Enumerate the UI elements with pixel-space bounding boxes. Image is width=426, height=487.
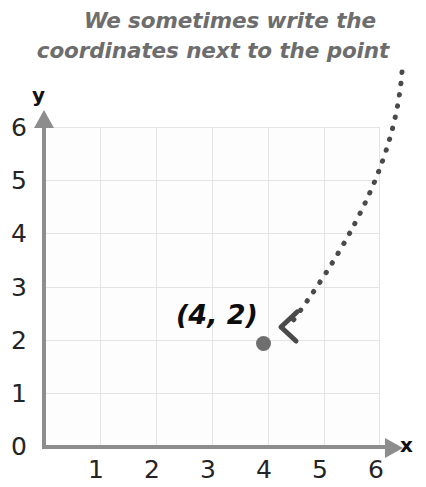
y-axis-label: y [32, 85, 45, 105]
caption-line-2: coordinates next to the point [0, 36, 426, 66]
gridline-h-6 [44, 127, 380, 128]
gridline-h-4 [44, 233, 380, 234]
x-tick-2: 2 [139, 457, 165, 482]
x-axis-line [42, 445, 390, 449]
y-tick-1: 1 [6, 381, 32, 406]
x-axis-label: x [400, 435, 413, 455]
x-tick-4: 4 [251, 457, 277, 482]
plot-area [44, 127, 380, 447]
x-tick-3: 3 [195, 457, 221, 482]
gridline-h-3 [44, 287, 380, 288]
y-tick-3: 3 [6, 275, 32, 300]
y-axis-arrowhead-icon [34, 110, 54, 128]
x-tick-1: 1 [83, 457, 109, 482]
gridline-h-5 [44, 180, 380, 181]
y-tick-6: 6 [6, 115, 32, 140]
point-coordinate-label: (4, 2) [176, 300, 258, 330]
y-tick-2: 2 [6, 328, 32, 353]
y-axis-line [42, 125, 46, 449]
caption-line-1: We sometimes write the [0, 6, 426, 36]
y-tick-5: 5 [6, 168, 32, 193]
gridline-h-1 [44, 393, 380, 394]
data-point-4-2 [256, 336, 271, 351]
y-tick-4: 4 [6, 221, 32, 246]
gridline-h-2 [44, 340, 380, 341]
origin-tick-0: 0 [6, 434, 32, 459]
coordinate-plane-figure: We sometimes write the coordinates next … [0, 0, 426, 487]
x-tick-6: 6 [363, 457, 389, 482]
x-tick-5: 5 [307, 457, 333, 482]
